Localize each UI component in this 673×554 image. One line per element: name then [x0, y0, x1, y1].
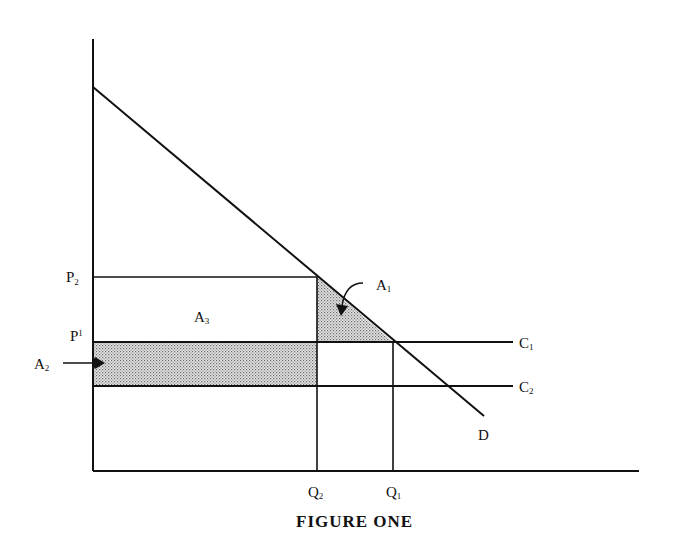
label-c1: C1	[519, 335, 534, 352]
label-q2: Q2	[308, 484, 323, 501]
label-c2: C2	[519, 379, 534, 396]
label-a1: A1	[376, 277, 391, 294]
label-d: D	[478, 427, 489, 443]
label-a3: A3	[194, 309, 210, 326]
figure-one-diagram: P2 P1 Q2 Q1 C1 C2 D A1 A2 A3 FIGURE ONE	[0, 0, 673, 554]
label-a2: A2	[34, 356, 49, 373]
area-a2-shading	[93, 342, 317, 386]
label-p1: P1	[70, 328, 83, 344]
figure-caption: FIGURE ONE	[296, 512, 413, 531]
label-p2: P2	[66, 269, 79, 287]
label-q1: Q1	[386, 484, 401, 501]
